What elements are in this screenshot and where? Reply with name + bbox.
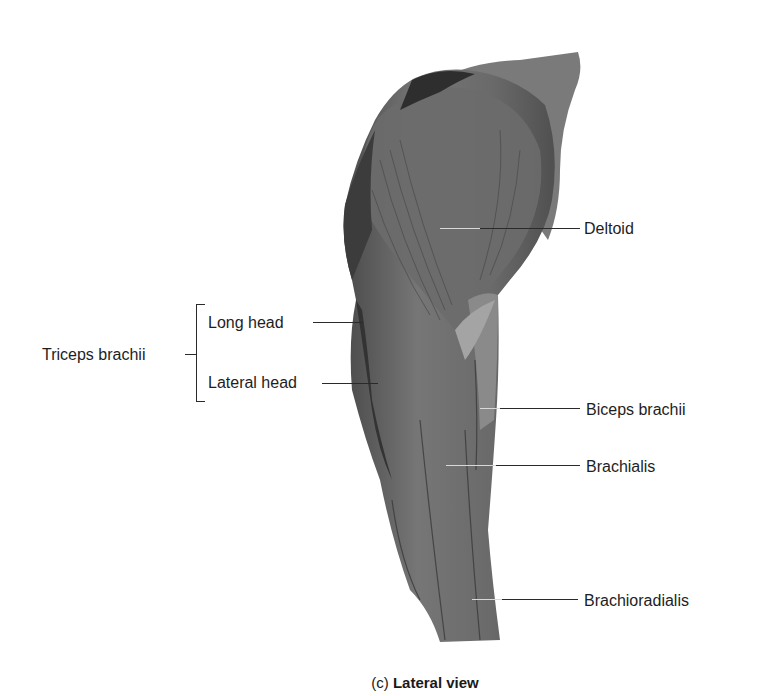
label-biceps-brachii: Biceps brachii (586, 401, 686, 419)
label-lateral-head: Lateral head (208, 374, 297, 392)
lateral-head-leader (322, 383, 378, 384)
biceps-leader-line (500, 408, 580, 409)
figure-caption: (c) Lateral view (300, 674, 550, 692)
caption-letter: (c) (371, 674, 389, 691)
deltoid-leader-line (480, 228, 580, 229)
brachialis-leader-inner (446, 465, 496, 466)
biceps-leader-inner (480, 408, 500, 409)
label-brachialis: Brachialis (586, 458, 655, 476)
triceps-bracket (196, 304, 205, 402)
label-long-head: Long head (208, 314, 284, 332)
anatomy-figure: Deltoid Triceps brachii Long head Latera… (0, 0, 768, 696)
label-brachioradialis: Brachioradialis (584, 592, 689, 610)
deltoid-leader-inner (440, 228, 480, 229)
label-deltoid: Deltoid (584, 220, 634, 238)
brachialis-leader-line (496, 465, 580, 466)
label-triceps-brachii: Triceps brachii (42, 346, 145, 364)
brachioradialis-leader-line (502, 599, 578, 600)
long-head-leader (313, 322, 363, 323)
brachioradialis-leader-inner (472, 599, 502, 600)
caption-title: Lateral view (393, 674, 479, 691)
